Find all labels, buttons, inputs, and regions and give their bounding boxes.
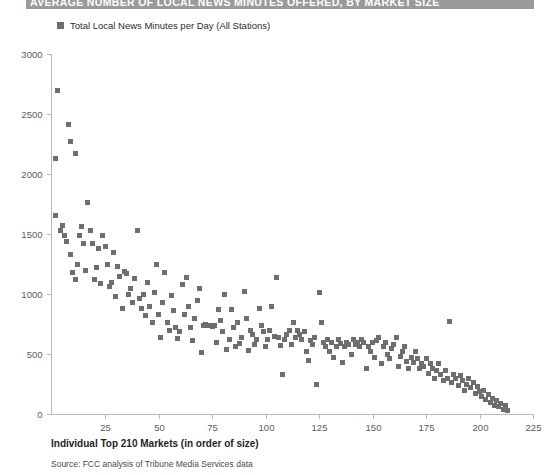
data-point [145, 280, 150, 285]
data-point [85, 200, 90, 205]
data-point [73, 277, 78, 282]
data-point [304, 349, 309, 354]
data-point [254, 337, 259, 342]
data-point [246, 348, 251, 353]
data-point [199, 350, 204, 355]
data-point [376, 335, 381, 340]
data-point [224, 347, 229, 352]
data-point [79, 224, 84, 229]
data-point [287, 328, 292, 333]
data-point [66, 122, 71, 127]
data-point [154, 262, 159, 267]
data-point [426, 371, 431, 376]
data-point [259, 323, 264, 328]
data-point [167, 328, 172, 333]
data-point [105, 262, 110, 267]
data-point [182, 312, 187, 317]
data-point [387, 356, 392, 361]
y-tick-label: 1500 [21, 229, 42, 240]
data-point [53, 213, 58, 218]
x-axis-title: Individual Top 210 Markets (in order of … [51, 438, 259, 449]
data-point [111, 250, 116, 255]
data-point [413, 349, 418, 354]
data-point [126, 292, 131, 297]
data-point [68, 252, 73, 257]
data-point [269, 304, 274, 309]
data-point [186, 304, 191, 309]
data-point [94, 265, 99, 270]
data-point [498, 401, 503, 406]
plot-area: 0500100015002000250030002550751001251501… [0, 0, 560, 475]
data-point [212, 323, 217, 328]
data-point [443, 368, 448, 373]
data-point [263, 344, 268, 349]
data-point [171, 308, 176, 313]
data-point [190, 338, 195, 343]
data-point [120, 306, 125, 311]
data-point [361, 340, 366, 345]
data-point [216, 307, 221, 312]
data-point [115, 264, 120, 269]
data-point [432, 376, 437, 381]
data-point [409, 355, 414, 360]
data-point [456, 383, 461, 388]
data-point [53, 156, 58, 161]
data-point [81, 241, 86, 246]
data-point [481, 388, 486, 393]
y-tick-label: 500 [27, 349, 43, 360]
y-tick-label: 0 [37, 409, 42, 420]
x-tick-label: 75 [207, 422, 218, 433]
data-points-group [53, 88, 510, 413]
data-point [447, 319, 452, 324]
data-point [400, 349, 405, 354]
data-point [312, 335, 317, 340]
data-point [239, 335, 244, 340]
data-point [175, 336, 180, 341]
data-point [372, 355, 377, 360]
data-point [229, 307, 234, 312]
data-point [483, 397, 488, 402]
data-point [222, 292, 227, 297]
data-point [88, 228, 93, 233]
data-point [267, 328, 272, 333]
data-point [117, 274, 122, 279]
data-point [77, 233, 82, 238]
data-point [103, 244, 108, 249]
data-point [436, 361, 441, 366]
data-point [346, 342, 351, 347]
data-point [177, 329, 182, 334]
data-point [220, 329, 225, 334]
data-point [83, 268, 88, 273]
data-point [75, 262, 80, 267]
data-point [274, 275, 279, 280]
x-tick-label: 200 [473, 422, 489, 433]
data-point [130, 300, 135, 305]
data-point [152, 290, 157, 295]
data-point [280, 372, 285, 377]
data-point [415, 356, 420, 361]
y-tick-label: 1000 [21, 289, 42, 300]
scatter-plot-svg: 0500100015002000250030002550751001251501… [0, 0, 560, 475]
data-point [60, 223, 65, 228]
data-point [368, 349, 373, 354]
data-point [98, 281, 103, 286]
data-point [92, 277, 97, 282]
data-point [197, 286, 202, 291]
x-tick-label: 125 [312, 422, 328, 433]
data-point [160, 300, 165, 305]
data-point [143, 313, 148, 318]
data-point [291, 320, 296, 325]
data-point [100, 233, 105, 238]
data-point [73, 151, 78, 156]
data-point [394, 335, 399, 340]
data-point [276, 335, 281, 340]
data-point [62, 233, 67, 238]
data-point [364, 366, 369, 371]
data-point [231, 325, 236, 330]
data-point [139, 306, 144, 311]
x-tick-label: 100 [259, 422, 275, 433]
y-tick-label: 3000 [21, 49, 42, 60]
data-point [327, 349, 332, 354]
data-point [402, 344, 407, 349]
data-point [132, 276, 137, 281]
